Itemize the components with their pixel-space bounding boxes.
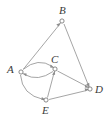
node-label-a: A — [7, 64, 14, 75]
edge-c-to-a — [22, 72, 53, 78]
edge-b-to-d — [64, 24, 90, 88]
node-marker-c[interactable] — [53, 67, 57, 71]
node-label-e: E — [42, 105, 49, 116]
node-label-c: C — [51, 54, 58, 65]
node-label-b: B — [59, 5, 66, 16]
node-marker-a[interactable] — [19, 70, 23, 74]
edge-c-to-d — [58, 71, 90, 88]
directed-graph-figure: A B C D E — [0, 0, 111, 122]
node-marker-e[interactable] — [44, 98, 48, 102]
node-marker-b[interactable] — [60, 19, 64, 23]
node-label-d: D — [95, 84, 103, 95]
node-marker-d[interactable] — [88, 87, 92, 91]
edge-a-to-e — [21, 75, 47, 100]
edge-e-to-d — [49, 88, 90, 99]
